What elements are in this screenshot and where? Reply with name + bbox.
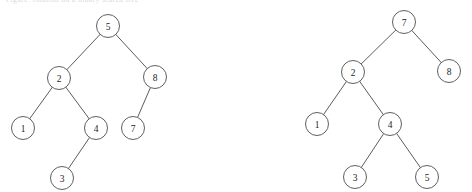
tree-edge (138, 88, 151, 118)
node-label: 4 (94, 124, 99, 134)
tree-node: 8 (438, 60, 461, 83)
figure-container: Figure: rotation on a binary search tree… (0, 0, 472, 192)
tree-edges-right-tree (324, 30, 442, 168)
tree-edge (68, 138, 89, 169)
node-label: 7 (131, 124, 136, 134)
edges-layer (30, 30, 442, 168)
tree-edge (116, 34, 147, 68)
tree-edge (324, 81, 347, 114)
tree-edge (67, 34, 100, 69)
tree-node: 4 (379, 113, 402, 136)
node-label: 5 (425, 173, 430, 183)
node-label: 8 (153, 73, 158, 83)
node-label: 1 (315, 120, 320, 130)
tree-node: 1 (306, 113, 329, 136)
tree-node: 3 (51, 167, 74, 190)
tree-node: 1 (12, 117, 35, 140)
tree-node: 7 (122, 117, 145, 140)
binary-tree-diagram: 52814737281435 (0, 0, 472, 192)
tree-node: 5 (97, 15, 120, 38)
tree-node: 8 (144, 66, 167, 89)
tree-edge (30, 87, 53, 118)
node-label: 3 (60, 174, 65, 184)
tree-edge (397, 133, 421, 167)
tree-node: 5 (416, 166, 439, 189)
tree-node: 3 (344, 166, 367, 189)
tree-edges-left-tree (30, 34, 151, 168)
tree-edge (361, 134, 383, 168)
tree-edge (361, 30, 396, 64)
tree-nodes-right-tree: 7281435 (306, 11, 461, 189)
tree-node: 2 (48, 67, 71, 90)
node-label: 7 (402, 18, 407, 28)
node-label: 1 (21, 124, 26, 134)
tree-node: 4 (85, 117, 108, 140)
tree-edge (360, 81, 384, 114)
node-label: 2 (57, 74, 62, 84)
tree-nodes-left-tree: 5281473 (12, 15, 167, 190)
tree-edge (412, 30, 441, 62)
tree-edge (66, 87, 89, 119)
node-label: 4 (388, 120, 393, 130)
node-label: 3 (353, 173, 358, 183)
tree-node: 2 (342, 61, 365, 84)
node-label: 2 (351, 68, 356, 78)
node-label: 5 (106, 22, 111, 32)
nodes-layer: 52814737281435 (12, 11, 461, 190)
node-label: 8 (447, 67, 452, 77)
tree-node: 7 (393, 11, 416, 34)
